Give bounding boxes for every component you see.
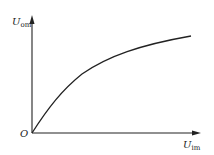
- origin-label: O: [20, 129, 28, 139]
- characteristic-diagram: Uom Uim O: [0, 0, 214, 155]
- x-axis-label: Uim: [183, 140, 200, 150]
- diagram-canvas: [0, 0, 214, 155]
- characteristic-curve: [32, 36, 191, 133]
- x-axis-arrow-icon: [192, 131, 201, 136]
- y-axis-label: Uom: [12, 17, 31, 27]
